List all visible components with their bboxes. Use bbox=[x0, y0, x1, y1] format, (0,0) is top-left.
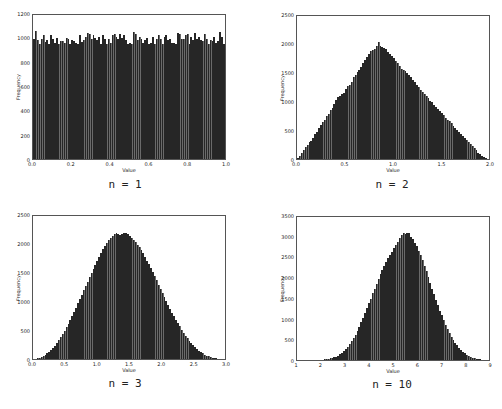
y-tick-label: 500 bbox=[4, 328, 30, 334]
histogram-bars bbox=[297, 16, 489, 159]
plot-area bbox=[296, 216, 490, 361]
histogram-bars bbox=[33, 216, 225, 359]
x-tick-label: 4 bbox=[367, 362, 370, 368]
x-tick-label: 9 bbox=[488, 362, 491, 368]
x-tick-label: 2.0 bbox=[157, 361, 165, 367]
y-tick-label: 0 bbox=[4, 357, 30, 363]
x-tick-label: 1 bbox=[294, 362, 297, 368]
x-tick-label: 3 bbox=[343, 362, 346, 368]
y-tick-label: 2000 bbox=[4, 241, 30, 247]
y-tick-label: 0 bbox=[268, 358, 294, 364]
x-axis-label: Value bbox=[386, 167, 400, 173]
y-tick-label: 1000 bbox=[4, 35, 30, 41]
y-tick-label: 800 bbox=[4, 60, 30, 66]
x-tick-label: 0.5 bbox=[341, 161, 349, 167]
x-tick-label: 2 bbox=[319, 362, 322, 368]
y-tick-label: 200 bbox=[4, 133, 30, 139]
y-tick-label: 0 bbox=[268, 157, 294, 163]
y-axis-label: Frequency bbox=[279, 75, 285, 101]
y-tick-label: 2000 bbox=[268, 41, 294, 47]
y-axis-label: Frequency bbox=[15, 74, 21, 100]
y-tick-label: 500 bbox=[268, 337, 294, 343]
x-tick-label: 8 bbox=[464, 362, 467, 368]
plot-area bbox=[32, 14, 226, 160]
x-tick-label: 2.5 bbox=[190, 361, 198, 367]
y-tick-label: 3000 bbox=[268, 234, 294, 240]
y-tick-label: 2500 bbox=[268, 254, 294, 260]
x-tick-label: 0.8 bbox=[183, 161, 191, 167]
panel-caption: n = 10 bbox=[372, 378, 412, 391]
plot-area bbox=[32, 215, 226, 360]
x-tick-label: 0.0 bbox=[292, 161, 300, 167]
x-tick-label: 7 bbox=[440, 362, 443, 368]
x-tick-label: 0.0 bbox=[28, 361, 36, 367]
x-axis-label: Value bbox=[122, 167, 136, 173]
x-tick-label: 0.4 bbox=[106, 161, 114, 167]
y-axis-label: Frequency bbox=[279, 276, 285, 302]
panel-caption: n = 1 bbox=[108, 178, 141, 191]
histogram-bars bbox=[297, 217, 489, 360]
x-axis-label: Value bbox=[122, 367, 136, 373]
histogram-bars bbox=[33, 15, 225, 159]
panel-caption: n = 3 bbox=[108, 377, 141, 390]
panel-caption: n = 2 bbox=[375, 178, 408, 191]
x-tick-label: 0.2 bbox=[67, 161, 75, 167]
x-tick-label: 0.6 bbox=[144, 161, 152, 167]
y-tick-label: 500 bbox=[268, 128, 294, 134]
plot-area bbox=[296, 15, 490, 160]
x-axis-label: Value bbox=[386, 368, 400, 374]
x-tick-label: 0.5 bbox=[60, 361, 68, 367]
y-tick-label: 3500 bbox=[268, 213, 294, 219]
x-tick-label: 1.0 bbox=[222, 161, 230, 167]
x-tick-label: 1.5 bbox=[438, 161, 446, 167]
y-tick-label: 1200 bbox=[4, 11, 30, 17]
y-tick-label: 2500 bbox=[268, 12, 294, 18]
y-tick-label: 400 bbox=[4, 108, 30, 114]
y-axis-label: Frequency bbox=[15, 275, 21, 301]
x-tick-label: 6 bbox=[416, 362, 419, 368]
y-tick-label: 2500 bbox=[4, 212, 30, 218]
x-tick-label: 1.0 bbox=[93, 361, 101, 367]
y-tick-label: 0 bbox=[4, 157, 30, 163]
y-tick-label: 1000 bbox=[268, 317, 294, 323]
x-tick-label: 3.0 bbox=[222, 361, 230, 367]
x-tick-label: 2.0 bbox=[486, 161, 494, 167]
x-tick-label: 0.0 bbox=[28, 161, 36, 167]
